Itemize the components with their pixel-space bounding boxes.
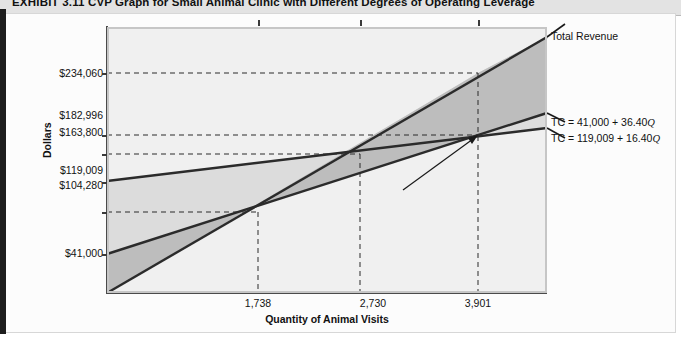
- y-tick-label-41000: $41,000: [45, 247, 103, 259]
- series-label-tc-high-fixed: TC = 119,009 + 16.40Q: [551, 132, 660, 144]
- y-tick-label-163800: $163,800: [45, 126, 103, 138]
- x-tick-label-2730: 2,730: [343, 297, 403, 309]
- series-label-tc-low-fixed: TC = 41,000 + 36.40Q: [551, 116, 655, 128]
- plot-frame: [107, 27, 547, 293]
- exhibit-figure: EXHIBIT 3.11 CVP Graph for Small Animal …: [0, 0, 681, 348]
- x-axis-title: Quantity of Animal Visits: [107, 313, 547, 325]
- x-tick-3901: [478, 20, 480, 26]
- x-tick-2730: [360, 20, 362, 26]
- x-tick-1738: [258, 20, 260, 26]
- y-tick-label-104280: $104,280: [45, 179, 103, 191]
- plot-area: [107, 27, 547, 293]
- tc-low-fixed-text: TC = 41,000 + 36.40: [551, 116, 647, 128]
- y-tick-label-119009: $119,009: [45, 164, 103, 176]
- tc-high-fixed-q: Q: [652, 133, 660, 144]
- series-label-total-revenue: Total Revenue: [551, 30, 618, 42]
- y-tick-label-234060: $234,060: [45, 67, 103, 79]
- exhibit-title: EXHIBIT 3.11 CVP Graph for Small Animal …: [12, 0, 535, 8]
- exhibit-number: EXHIBIT 3.11: [12, 0, 85, 8]
- exhibit-title-text: CVP Graph for Small Animal Clinic with D…: [88, 0, 535, 8]
- tc-low-fixed-q: Q: [647, 117, 655, 128]
- y-tick-label-182996: $182,996: [45, 109, 103, 121]
- x-tick-label-1738: 1,738: [228, 297, 288, 309]
- tc-high-fixed-text: TC = 119,009 + 16.40: [551, 132, 652, 144]
- x-tick-label-3901: 3,901: [448, 297, 508, 309]
